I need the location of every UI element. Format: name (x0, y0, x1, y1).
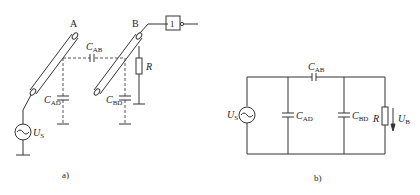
source-lead (23, 95, 31, 124)
resistor-label-b: R (372, 113, 379, 124)
gate-label: 1 (170, 19, 175, 29)
source-label-a: US (33, 127, 44, 140)
sine-icon (241, 113, 253, 117)
wire-b (93, 32, 143, 96)
resistor-label-a: R (145, 61, 152, 72)
node-b-label: B (132, 18, 139, 29)
b-lead (140, 24, 168, 33)
source-label-b: US (227, 109, 238, 122)
cap-bd-label-b: CBD (352, 110, 368, 123)
cap-ab-label-a: CAB (86, 41, 103, 54)
wire-a (29, 32, 79, 96)
caption-b: b) (314, 173, 322, 183)
resistor-r-b (382, 107, 388, 125)
sine-icon (17, 130, 29, 134)
caption-a: a) (62, 170, 69, 180)
cap-ad-label-b: CAD (296, 110, 313, 123)
output-label-b: UB (398, 113, 410, 126)
figure-b (239, 73, 395, 154)
not-gate-bubble (180, 22, 183, 25)
resistor-r-a (136, 58, 142, 74)
cap-ab-label-b: CAB (308, 61, 325, 74)
diagram-canvas: A B 1 CAB CAD CBD R US a) (0, 0, 420, 195)
node-a-label: A (70, 18, 78, 29)
